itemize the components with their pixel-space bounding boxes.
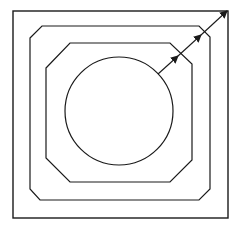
outer-square bbox=[13, 11, 228, 218]
arrow-3 bbox=[201, 11, 227, 35]
inner-octagon bbox=[46, 43, 192, 182]
center-circle bbox=[65, 57, 173, 165]
nested-shapes-diagram bbox=[0, 0, 240, 226]
arrow-1 bbox=[158, 56, 178, 74]
arrow-2 bbox=[178, 35, 201, 56]
